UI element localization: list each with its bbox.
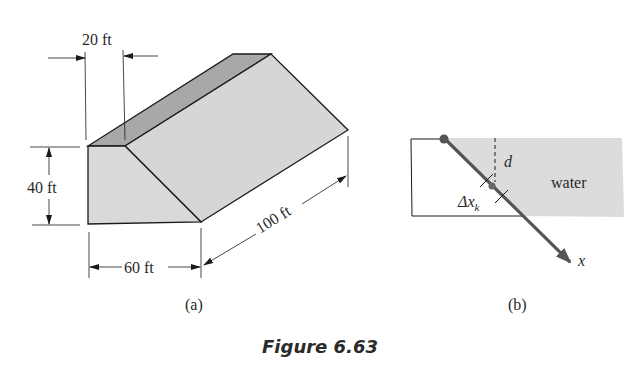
panel-b-label: (b) bbox=[508, 296, 527, 314]
figure-caption: Figure 6.63 bbox=[0, 336, 640, 357]
dimension-label-40ft: 40 ft bbox=[27, 179, 57, 196]
x-axis-label: x bbox=[577, 252, 585, 269]
delta-x-label: Δxk bbox=[457, 193, 481, 213]
depth-label: d bbox=[504, 153, 513, 170]
dimension-label-20ft: 20 ft bbox=[82, 31, 112, 48]
figure-canvas: 20 ft 40 ft 60 ft 100 ft (a) bbox=[0, 0, 640, 379]
dimension-label-60ft: 60 ft bbox=[124, 259, 154, 276]
panel-a-prism bbox=[88, 54, 348, 224]
panel-a-label: (a) bbox=[185, 296, 203, 314]
strip-point bbox=[489, 183, 496, 190]
panel-b-cross-section bbox=[411, 135, 624, 263]
dimension-bottom-width: 60 ft bbox=[89, 228, 201, 278]
water-label: water bbox=[551, 174, 587, 191]
dimension-label-100ft: 100 ft bbox=[253, 202, 295, 237]
dimension-height: 40 ft bbox=[27, 147, 80, 225]
origin-point bbox=[440, 135, 449, 144]
